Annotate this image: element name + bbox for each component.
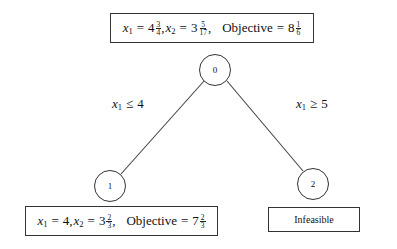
comma: , (208, 20, 211, 36)
x1-whole: 4 (148, 20, 155, 36)
node-label: 0 (213, 65, 218, 75)
equals: = (181, 213, 188, 229)
node-label: 1 (108, 181, 113, 191)
subscript: 2 (171, 26, 175, 36)
equals: = (137, 20, 144, 36)
objective-fraction: 16 (296, 21, 302, 36)
branch-and-bound-diagram: x1 = 434, x2 = 3517, Objective = 816 0 1… (0, 0, 397, 249)
node-1-solution: x1 = 4, x2 = 323, Objective = 723 (37, 213, 205, 229)
edge-label-0-2: x1 ≥ 5 (296, 96, 328, 112)
bound-value: 5 (321, 96, 328, 112)
node-0-solution-box: x1 = 434, x2 = 3517, Objective = 816 (110, 13, 314, 43)
tree-node-0: 0 (199, 54, 231, 86)
objective-fraction: 23 (200, 214, 206, 229)
greater-equal-op: ≥ (310, 96, 317, 112)
edge-0-to-1 (121, 81, 204, 174)
equals: = (277, 20, 284, 36)
equals: = (88, 213, 95, 229)
tree-node-1: 1 (94, 170, 126, 202)
equals: = (51, 213, 58, 229)
objective-whole: 7 (192, 213, 199, 229)
denominator: 17 (198, 29, 208, 36)
comma: , (69, 213, 72, 229)
x2-whole: 3 (191, 20, 198, 36)
denominator: 6 (296, 29, 302, 36)
comma: , (161, 20, 164, 36)
subscript: 1 (43, 219, 47, 229)
x2-fraction: 517 (198, 21, 208, 36)
subscript: 1 (128, 26, 132, 36)
infeasible-label: Infeasible (294, 214, 333, 225)
tree-node-2: 2 (297, 168, 329, 200)
node-2-status-box: Infeasible (268, 207, 360, 232)
less-equal-op: ≤ (126, 96, 133, 112)
x2-whole: 3 (99, 213, 106, 229)
edge-0-to-2 (227, 81, 303, 171)
denominator: 3 (200, 222, 206, 229)
node-1-solution-box: x1 = 4, x2 = 323, Objective = 723 (25, 206, 218, 236)
equals: = (180, 20, 187, 36)
objective-label: Objective (126, 213, 177, 229)
bound-value: 4 (137, 96, 144, 112)
node-0-solution: x1 = 434, x2 = 3517, Objective = 816 (123, 20, 302, 36)
subscript: 1 (302, 102, 306, 112)
subscript: 2 (79, 219, 83, 229)
edge-label-0-1: x1 ≤ 4 (112, 96, 144, 112)
node-label: 2 (311, 179, 316, 189)
comma: , (112, 213, 115, 229)
objective-whole: 8 (288, 20, 295, 36)
subscript: 1 (118, 102, 122, 112)
objective-label: Objective (222, 20, 273, 36)
